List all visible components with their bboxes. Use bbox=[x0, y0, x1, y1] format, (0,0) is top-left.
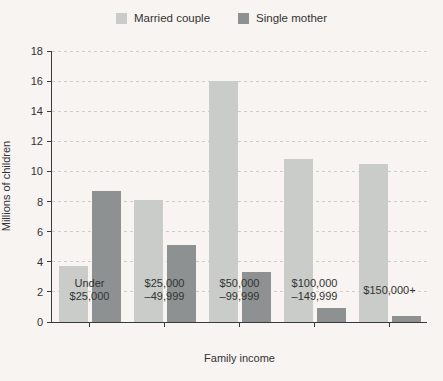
legend-item-married-couple: Married couple bbox=[116, 12, 210, 24]
x-tick-3 bbox=[314, 323, 315, 327]
y-tick-18 bbox=[47, 51, 51, 52]
y-tick-label-6: 6 bbox=[19, 227, 43, 238]
y-tick-6 bbox=[47, 231, 51, 232]
y-tick-label-2: 2 bbox=[19, 287, 43, 298]
y-tick-10 bbox=[47, 171, 51, 172]
x-category-label-line: $100,000 bbox=[292, 277, 338, 290]
y-axis-title: Millions of children bbox=[0, 116, 12, 256]
chart-legend: Married coupleSingle mother bbox=[0, 12, 443, 24]
y-tick-16 bbox=[47, 81, 51, 82]
legend-label: Married couple bbox=[134, 12, 210, 24]
x-category-label-0: Under$25,000 bbox=[51, 276, 129, 304]
x-category-label-line: –49,999 bbox=[145, 290, 185, 303]
y-tick-label-4: 4 bbox=[19, 257, 43, 268]
x-tick-2 bbox=[239, 323, 240, 327]
y-tick-label-16: 16 bbox=[19, 76, 43, 87]
gridline-y-12 bbox=[52, 141, 427, 142]
x-category-label-line: Under bbox=[75, 277, 105, 290]
y-tick-label-14: 14 bbox=[19, 106, 43, 117]
legend-swatch-icon bbox=[116, 13, 127, 24]
x-category-label-line: $25,000 bbox=[145, 277, 185, 290]
legend-swatch-icon bbox=[238, 13, 249, 24]
y-tick-label-18: 18 bbox=[19, 46, 43, 57]
y-tick-label-0: 0 bbox=[19, 317, 43, 328]
x-category-label-2: $50,000–99,999 bbox=[201, 276, 279, 304]
legend-item-single-mother: Single mother bbox=[238, 12, 327, 24]
y-tick-14 bbox=[47, 111, 51, 112]
x-axis-title: Family income bbox=[52, 352, 427, 364]
x-category-label-3: $100,000–149,999 bbox=[276, 276, 354, 304]
y-tick-12 bbox=[47, 141, 51, 142]
x-category-label-line: –99,999 bbox=[220, 290, 260, 303]
x-category-label-line: $150,000+ bbox=[363, 284, 415, 297]
gridline-y-14 bbox=[52, 111, 427, 112]
x-category-label-1: $25,000–49,999 bbox=[126, 276, 204, 304]
y-tick-0 bbox=[47, 322, 51, 323]
y-tick-label-10: 10 bbox=[19, 166, 43, 177]
legend-label: Single mother bbox=[256, 12, 327, 24]
y-tick-4 bbox=[47, 261, 51, 262]
y-tick-label-8: 8 bbox=[19, 197, 43, 208]
x-category-label-line: $25,000 bbox=[70, 290, 110, 303]
y-tick-label-12: 12 bbox=[19, 136, 43, 147]
x-tick-4 bbox=[389, 323, 390, 327]
bar-single-mother-group-3 bbox=[317, 308, 346, 322]
x-category-label-4: $150,000+ bbox=[351, 276, 429, 304]
x-tick-1 bbox=[164, 323, 165, 327]
bar-single-mother-group-4 bbox=[392, 316, 421, 322]
x-category-label-line: –149,999 bbox=[292, 290, 338, 303]
gridline-y-18 bbox=[52, 51, 427, 52]
grouped-bar-chart: Married coupleSingle mother Millions of … bbox=[0, 0, 443, 381]
x-tick-0 bbox=[89, 323, 90, 327]
gridline-y-16 bbox=[52, 81, 427, 82]
y-tick-8 bbox=[47, 201, 51, 202]
x-category-label-line: $50,000 bbox=[220, 277, 260, 290]
